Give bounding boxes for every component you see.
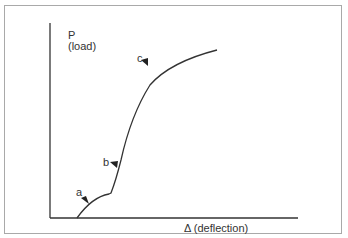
arrow-a-icon — [81, 196, 89, 204]
load-deflection-diagram — [0, 0, 348, 238]
point-a-label: a — [76, 186, 82, 198]
arrow-b-icon — [110, 161, 118, 168]
load-deflection-curve — [77, 50, 217, 218]
point-b-label: b — [103, 156, 109, 168]
point-c-label: c — [137, 52, 143, 64]
y-axis-description: (load) — [68, 40, 96, 52]
x-axis-label: Δ (deflection) — [184, 222, 248, 234]
